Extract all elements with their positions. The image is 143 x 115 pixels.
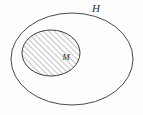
set-diagram-canvas: H M bbox=[0, 0, 143, 115]
outer-set-label: H bbox=[91, 2, 101, 14]
inner-set-label: M bbox=[61, 52, 70, 62]
inner-set-hatch-fill bbox=[0, 0, 143, 115]
set-diagram-figure: H M bbox=[0, 0, 143, 115]
